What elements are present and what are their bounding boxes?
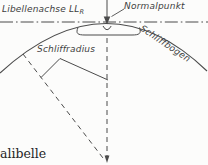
axis-label-subscript: R	[80, 8, 85, 16]
normal-point-label: Normalpunkt	[124, 1, 185, 11]
normal-point-circle	[103, 26, 111, 30]
diagram-linework	[0, 0, 208, 165]
schliffradius-leader-line	[41, 59, 108, 81]
arrow-down-icon	[105, 156, 110, 164]
caption-fragment: alibelle	[0, 146, 46, 161]
axis-label: Libellenachse LLR	[2, 4, 84, 17]
grinding-radius-label: Schliffradius	[37, 44, 95, 54]
spirit-level-diagram: Libellenachse LLR Normalpunkt Schliffrad…	[0, 0, 208, 165]
radius-dashed-line-left	[23, 54, 105, 160]
axis-label-text: Libellenachse LL	[2, 4, 80, 14]
normalpunkt-leader-line	[112, 9, 125, 17]
